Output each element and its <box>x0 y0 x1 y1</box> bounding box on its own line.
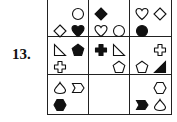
heart-outline-icon <box>94 24 108 38</box>
right-triangle-outline-icon <box>112 43 126 57</box>
diamond-solid-icon <box>94 7 108 21</box>
circle-outline-icon <box>112 24 126 38</box>
heart-solid-icon <box>71 24 85 38</box>
circle-outline-icon <box>71 7 85 21</box>
cross-outline-icon <box>153 43 167 57</box>
right-triangle-outline-icon <box>53 43 67 57</box>
chevron-outline-icon <box>71 81 85 95</box>
problem-number: 13. <box>12 46 31 63</box>
chevron-solid-icon <box>135 98 149 112</box>
pentagon-outline-icon <box>135 60 149 74</box>
diamond-outline-icon <box>53 24 67 38</box>
hexagon-solid-icon <box>53 98 67 112</box>
grid-line-v2 <box>129 0 130 115</box>
grid-line-v1 <box>88 0 89 115</box>
grid-line-h2 <box>47 74 172 75</box>
drop-outline-icon <box>53 81 67 95</box>
hexagon-outline-icon <box>153 81 167 95</box>
right-triangle-solid-icon <box>153 60 167 74</box>
circle-solid-icon <box>135 24 149 38</box>
heart-outline-icon <box>135 7 149 21</box>
pentagon-solid-icon <box>71 43 85 57</box>
diamond-outline-icon <box>153 7 167 21</box>
drop-outline-icon <box>153 98 167 112</box>
cross-outline-icon <box>53 60 67 74</box>
cross-solid-icon <box>94 43 108 57</box>
pentagon-outline-icon <box>112 60 126 74</box>
